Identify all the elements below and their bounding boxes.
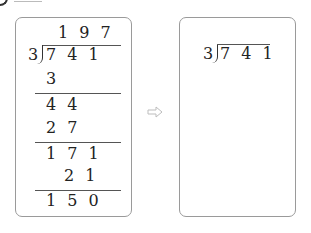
division-bracket <box>36 45 43 64</box>
blank-division-box: 3 7 4 1 <box>179 17 296 217</box>
dividend: 7 4 1 <box>220 45 276 63</box>
step-remainder-2: 1 7 1 <box>46 145 102 163</box>
step-subtract-3: 2 1 <box>64 167 98 185</box>
step-rule-2 <box>35 142 121 143</box>
answer-blank-line <box>14 1 42 2</box>
right-arrow-icon <box>147 106 163 118</box>
step-subtract-2: 2 7 <box>46 119 80 137</box>
step-rule-1 <box>35 93 121 94</box>
step-subtract-1: 3 <box>46 70 59 88</box>
problem-number-mark <box>0 0 8 6</box>
worked-division-box: 1 9 7 3 7 4 1 3 4 4 2 7 1 7 1 2 1 1 5 0 <box>15 17 132 217</box>
step-remainder-1: 4 4 <box>46 96 80 114</box>
dividend: 7 4 1 <box>46 46 102 64</box>
division-bracket <box>211 44 218 63</box>
quotient: 1 9 7 <box>58 24 114 42</box>
step-remainder-3: 1 5 0 <box>46 192 102 210</box>
